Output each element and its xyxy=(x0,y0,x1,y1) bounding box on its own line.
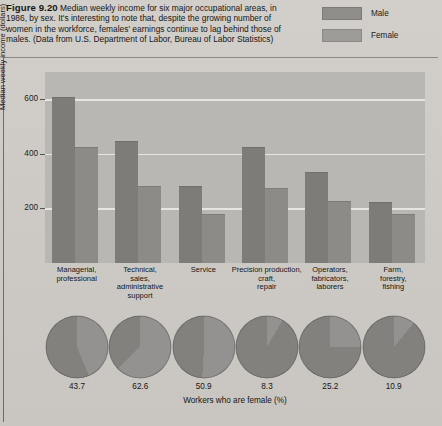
pie-slices xyxy=(299,316,361,378)
figure-number: Figure 9.20 xyxy=(6,2,58,13)
x-axis-label: Managerial,professional xyxy=(41,266,112,283)
bar-female xyxy=(392,214,415,263)
bar-male xyxy=(369,202,392,263)
bar-female xyxy=(202,214,225,263)
pie-chart xyxy=(46,316,108,378)
pie-row-caption: Workers who are female (%) xyxy=(45,396,425,405)
pie-percent-label: 10.9 xyxy=(363,382,425,391)
pie-slices xyxy=(236,316,298,378)
legend-item-male: Male xyxy=(322,6,438,20)
bar-male xyxy=(179,186,202,263)
bar-female xyxy=(138,186,161,263)
y-axis-tick-label: 200 xyxy=(0,203,38,212)
pie-slices xyxy=(173,316,235,378)
pie-chart xyxy=(299,316,361,378)
pie-chart xyxy=(173,316,235,378)
y-axis-tick-label: 400 xyxy=(0,149,38,158)
legend-label-male: Male xyxy=(371,9,389,18)
legend-item-female: Female xyxy=(322,28,438,42)
pie-percent-label: 25.2 xyxy=(299,382,361,391)
pie-chart xyxy=(363,316,425,378)
pie-slices xyxy=(46,316,108,378)
pie-chart xyxy=(236,316,298,378)
x-axis-label: Technical,sales,administrative support xyxy=(104,266,175,300)
bar-chart-plot-area xyxy=(45,72,425,263)
pie-slices xyxy=(109,316,171,378)
pie-percent-label: 43.7 xyxy=(46,382,108,391)
x-axis-label: Operators,fabricators,laborers xyxy=(294,266,365,292)
bar-group xyxy=(115,72,161,263)
x-axis-label: Precision production,craft,repair xyxy=(231,266,302,292)
pie-chart-row: 43.762.650.98.325.210.9 xyxy=(45,316,425,394)
legend-swatch-male xyxy=(322,7,362,20)
bar-group xyxy=(179,72,225,263)
chart-legend: Male Female xyxy=(322,6,438,50)
pie-slices xyxy=(363,316,425,378)
figure-caption: Figure 9.20 Median weekly income for six… xyxy=(6,3,298,44)
bar-male xyxy=(52,97,75,263)
bar-male xyxy=(115,141,138,263)
x-axis-label: Farm,forestry,fishing xyxy=(358,266,429,292)
bar-male xyxy=(305,172,328,263)
bar-female xyxy=(265,188,288,263)
x-axis-label: Service xyxy=(168,266,239,275)
bar-group xyxy=(242,72,288,263)
pie-percent-label: 50.9 xyxy=(173,382,235,391)
pie-chart xyxy=(109,316,171,378)
bar-female xyxy=(328,201,351,263)
pie-percent-label: 62.6 xyxy=(109,382,171,391)
legend-swatch-female xyxy=(322,29,362,42)
y-axis-tick-label: 600 xyxy=(0,94,38,103)
figure-page: Figure 9.20 Median weekly income for six… xyxy=(0,0,442,426)
legend-label-female: Female xyxy=(371,31,398,40)
bar-male xyxy=(242,147,265,263)
bar-group xyxy=(52,72,98,263)
bar-series-container xyxy=(45,72,425,263)
pie-percent-label: 8.3 xyxy=(236,382,298,391)
x-axis-labels: Managerial,professionalTechnical,sales,a… xyxy=(45,266,425,304)
bar-group xyxy=(369,72,415,263)
bar-female xyxy=(75,147,98,263)
bar-group xyxy=(305,72,351,263)
